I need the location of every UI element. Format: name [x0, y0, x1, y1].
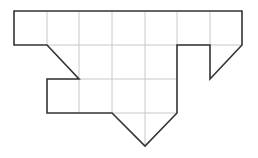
grid-polygon-figure [0, 0, 258, 158]
